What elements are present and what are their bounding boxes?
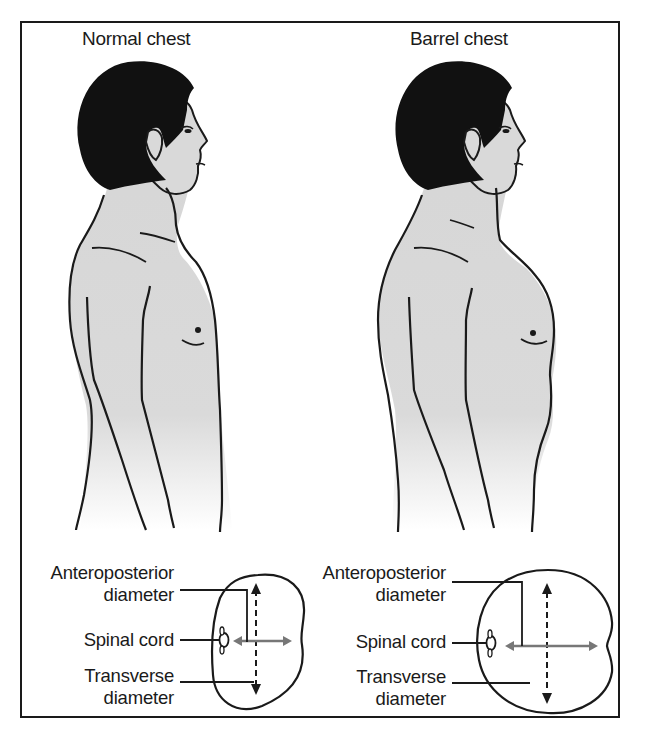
label-line: diameter (28, 584, 174, 606)
label-line: diameter (300, 584, 446, 606)
barrel-cross-section (452, 570, 612, 713)
label-line: Anteroposterior (300, 562, 446, 584)
label-line: Transverse (28, 665, 174, 687)
illustration (0, 0, 646, 737)
label-line: Anteroposterior (28, 562, 174, 584)
label-spinal-cord: Spinal cord (28, 629, 174, 651)
normal-cross-section (180, 575, 304, 709)
label-transverse-diameter: Transverse diameter (300, 666, 446, 710)
label-spinal-cord: Spinal cord (300, 631, 446, 653)
label-anteroposterior-diameter: Anteroposterior diameter (300, 562, 446, 606)
label-line: Transverse (300, 666, 446, 688)
label-line: diameter (300, 688, 446, 710)
label-line: diameter (28, 687, 174, 709)
barrel-chest-figure (378, 61, 556, 532)
label-anteroposterior-diameter: Anteroposterior diameter (28, 562, 174, 606)
normal-chest-figure (69, 61, 232, 532)
label-transverse-diameter: Transverse diameter (28, 665, 174, 709)
